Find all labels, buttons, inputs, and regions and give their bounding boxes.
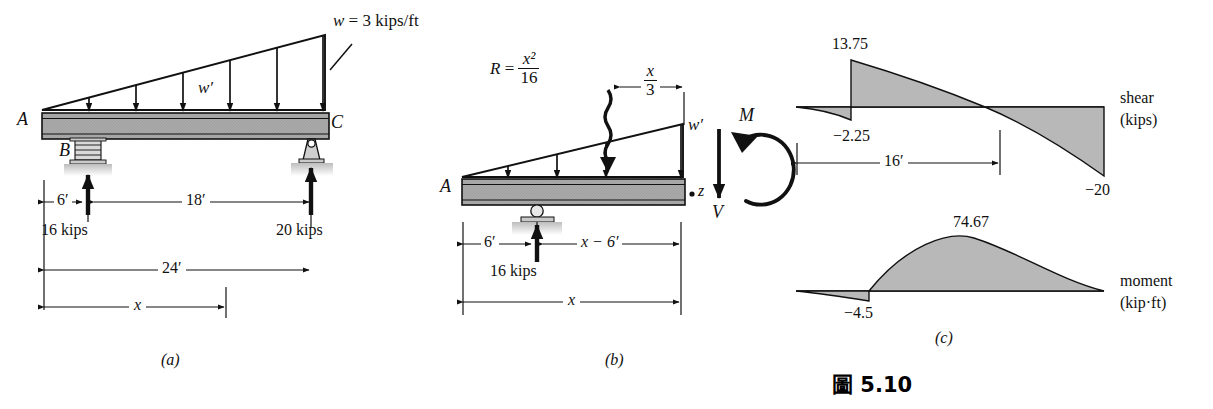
moment-area-positive <box>869 236 1104 291</box>
node-label-b: B <box>59 141 70 159</box>
node-label-a-b: A <box>440 177 451 195</box>
moment-diagram-group <box>796 236 1104 301</box>
shear-peak-value: 13.75 <box>832 36 868 52</box>
arm-fraction: x 3 <box>644 62 657 100</box>
dimension-x-b: x <box>563 292 580 308</box>
panel-a-group <box>42 35 352 318</box>
panel-c-caption: (c) <box>935 330 953 346</box>
load-symbol-w: w <box>333 11 344 30</box>
load-value: 3 kips/ft <box>362 11 418 30</box>
beam-b <box>462 179 685 205</box>
resultant-fraction: x² 16 <box>518 50 539 88</box>
moment-peak-value: 74.67 <box>953 214 989 230</box>
resultant-denominator: 16 <box>518 69 539 87</box>
support-b-roller <box>64 138 112 176</box>
shear-end-value: −20 <box>1085 182 1110 198</box>
load-leader-line-a <box>330 44 352 70</box>
dimension-x-over-3-label: x 3 <box>641 62 660 100</box>
panel-b-caption: (b) <box>605 352 624 368</box>
axis-label-z: z <box>698 183 704 199</box>
figure-caption-mark: 圖 <box>832 373 853 397</box>
dimension-6ft-a: 6′ <box>54 192 72 208</box>
distributed-load-label-a: w′ <box>198 79 213 96</box>
node-label-a: A <box>17 110 28 128</box>
moment-area-negative <box>796 291 869 301</box>
resultant-force-arrow <box>600 90 616 173</box>
internal-moment-label-m: M <box>739 106 754 124</box>
resultant-equals: = <box>505 59 515 78</box>
z-axis-dot <box>689 191 694 196</box>
node-label-c: C <box>331 113 343 131</box>
resultant-symbol-r: R <box>490 59 500 78</box>
beam-a <box>42 113 329 139</box>
reaction-label-16kips-b: 16 kips <box>490 263 537 279</box>
figure-caption: 圖 5.10 <box>832 368 912 398</box>
distributed-load-triangle-b <box>462 124 683 177</box>
arm-denominator: 3 <box>644 81 657 99</box>
shear-area-negative-left <box>796 107 851 120</box>
load-arrows-b <box>508 125 681 178</box>
arm-numerator: x <box>644 62 657 81</box>
resultant-numerator: x² <box>518 50 539 69</box>
figure-5-10: w = 3 kips/ft w′ A B C 6′ 18′ 24′ x 16 k… <box>0 0 1213 409</box>
moment-axis-title-line2: (kip·ft) <box>1120 295 1166 311</box>
shear-dip-value: −2.25 <box>833 128 870 144</box>
load-arrows-a <box>89 36 323 111</box>
dimension-x-minus-6-b: x − 6′ <box>577 234 622 250</box>
load-intensity-label-a: w = 3 kips/ft <box>333 12 419 29</box>
dimensions-a <box>44 178 311 318</box>
internal-shear-label-v: V <box>712 203 723 221</box>
shear-axis-title-line1: shear <box>1120 90 1154 106</box>
dimension-24ft-a: 24′ <box>158 260 186 276</box>
internal-moment-arrow <box>731 132 794 205</box>
load-equals: = <box>349 11 359 30</box>
resultant-equation-b: R = x² 16 <box>490 50 539 88</box>
panel-a-caption: (a) <box>161 352 180 368</box>
reaction-label-20kips-a: 20 kips <box>276 222 323 238</box>
shear-area-positive <box>851 60 985 107</box>
shear-dimension-16ft: 16′ <box>880 153 908 169</box>
distributed-load-label-b: w′ <box>688 116 703 133</box>
shear-diagram-group <box>796 60 1104 176</box>
dimension-x-a: x <box>129 297 146 313</box>
reaction-label-16kips-a: 16 kips <box>41 222 88 238</box>
moment-axis-title-line1: moment <box>1120 273 1172 289</box>
shear-axis-title-line2: (kips) <box>1120 112 1157 128</box>
dimension-6ft-b: 6′ <box>481 234 499 250</box>
dimension-18ft-a: 18′ <box>182 192 210 208</box>
figure-caption-number: 5.10 <box>860 373 912 397</box>
moment-dip-value: −4.5 <box>844 305 873 321</box>
shear-area-negative-right <box>985 107 1104 176</box>
